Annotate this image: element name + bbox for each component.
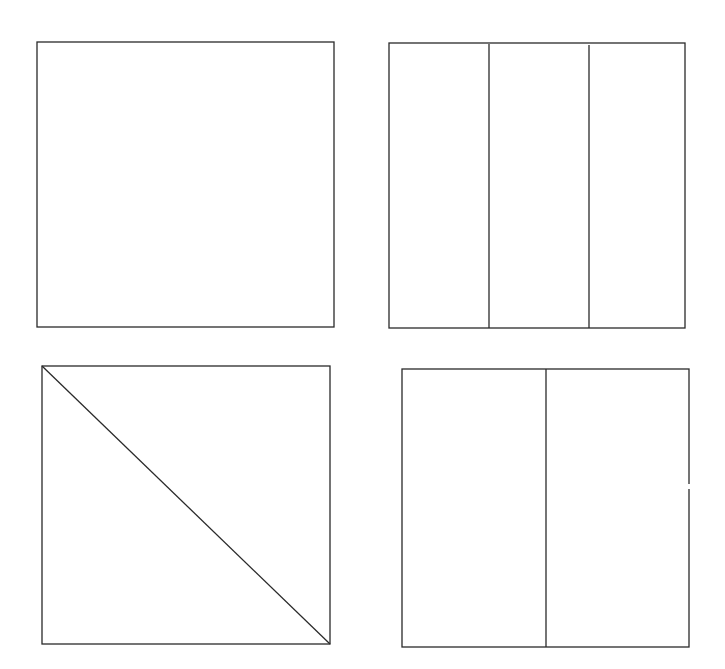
square-vertical-halves (402, 369, 691, 647)
fraction-squares-diagram (0, 0, 725, 669)
square-thirds (389, 43, 685, 328)
square-whole (37, 42, 334, 327)
diagonal-line (42, 366, 330, 644)
square-diagonal-halves (42, 366, 330, 644)
